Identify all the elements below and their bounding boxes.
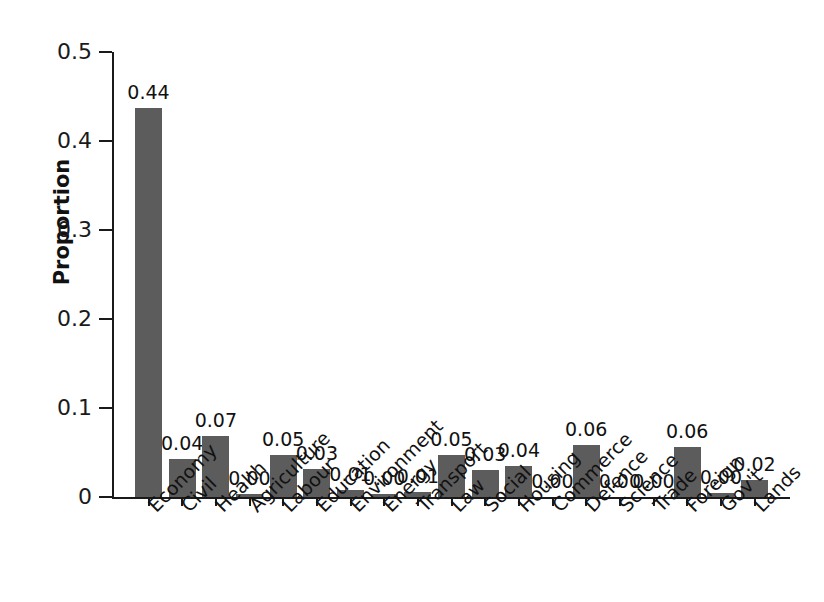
y-axis-tick-label: 0.2 [32, 308, 92, 330]
bar-group[interactable]: 0.06 [674, 52, 701, 497]
y-axis-tick-mark [99, 318, 112, 320]
y-axis-tick-label: 0 [32, 486, 92, 508]
bar-group[interactable]: 0.04 [505, 52, 532, 497]
bar-group[interactable]: 0.03 [472, 52, 499, 497]
y-axis-tick-mark [99, 140, 112, 142]
bar-group[interactable]: 0.07 [202, 52, 229, 497]
bar-group[interactable]: 0.00 [707, 52, 734, 497]
y-axis-tick-label: 0.4 [32, 130, 92, 152]
y-axis-tick-label: 0.3 [32, 219, 92, 241]
bar-group[interactable]: 0.44 [135, 52, 162, 497]
y-axis-tick-mark [99, 407, 112, 409]
bar-group[interactable]: 0.06 [573, 52, 600, 497]
bar-group[interactable]: 0.00 [236, 52, 263, 497]
bar-group[interactable]: 0.01 [337, 52, 364, 497]
y-axis-tick-labels: 00.10.20.30.40.5 [28, 0, 92, 602]
y-axis-tick-label: 0.1 [32, 397, 92, 419]
bar-value-label: 0.04 [498, 441, 540, 460]
bar-value-label: 0.44 [127, 83, 169, 102]
bar-group[interactable]: 0.05 [270, 52, 297, 497]
bar[interactable] [135, 108, 162, 497]
bar-group[interactable]: 0.00 [640, 52, 667, 497]
bar-group[interactable]: 0.00 [371, 52, 398, 497]
y-axis-tick-label: 0.5 [32, 41, 92, 63]
y-axis-tick-mark [99, 51, 112, 53]
bar-group[interactable]: 0.02 [741, 52, 768, 497]
plot-area: 0.440.040.070.000.050.030.010.000.010.05… [112, 52, 790, 497]
bar-value-label: 0.06 [565, 420, 607, 439]
bar-value-label: 0.07 [195, 411, 237, 430]
y-axis-tick-mark [99, 496, 112, 498]
bar-group[interactable]: 0.00 [539, 52, 566, 497]
bar-value-label: 0.06 [666, 422, 708, 441]
y-axis-tick-mark [99, 229, 112, 231]
bar-group[interactable]: 0.04 [169, 52, 196, 497]
chart-page: Proportion 00.10.20.30.40.5 0.440.040.07… [0, 0, 824, 602]
